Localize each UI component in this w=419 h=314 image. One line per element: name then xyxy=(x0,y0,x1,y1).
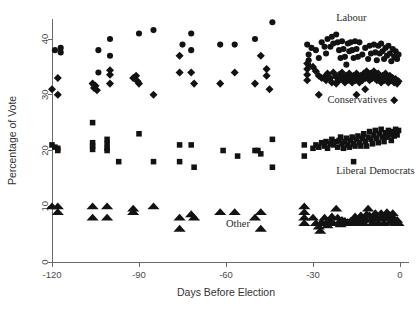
point-labour xyxy=(306,52,312,58)
point-labour xyxy=(150,27,156,33)
point-other xyxy=(214,208,226,215)
point-conservatives xyxy=(263,72,271,80)
point-conservatives xyxy=(216,80,224,88)
point-labour xyxy=(333,31,339,37)
point-labour xyxy=(188,30,194,36)
point-other xyxy=(174,214,186,221)
point-labour xyxy=(179,42,185,48)
point-conservatives xyxy=(265,85,273,93)
y-axis-title: Percentage of Vote xyxy=(6,96,18,185)
point-conservatives xyxy=(176,68,184,76)
point-liberal-democrats xyxy=(270,164,276,170)
plot-canvas: 010203040-120-90-60-300 LabourConservati… xyxy=(0,0,419,314)
point-labour xyxy=(356,39,362,45)
y-tick-label-30: 30 xyxy=(39,89,50,100)
x-tick-label--120: -120 xyxy=(42,269,61,280)
point-labour xyxy=(365,56,371,62)
point-labour xyxy=(322,44,328,50)
point-labour xyxy=(107,53,113,59)
point-labour xyxy=(95,47,101,53)
point-labour xyxy=(339,38,345,44)
point-labour xyxy=(188,47,194,53)
point-liberal-democrats xyxy=(270,137,276,143)
point-liberal-democrats xyxy=(191,164,197,170)
point-conservatives xyxy=(149,91,157,99)
point-conservatives xyxy=(231,68,239,76)
point-labour xyxy=(217,42,223,48)
point-other xyxy=(101,203,113,210)
point-labour xyxy=(269,19,275,25)
y-tick-label-10: 10 xyxy=(39,201,50,212)
point-labour xyxy=(313,47,319,53)
point-labour xyxy=(232,42,238,48)
x-tick-label--30: -30 xyxy=(306,269,320,280)
y-tick-label-40: 40 xyxy=(39,34,50,45)
x-tick-label--90: -90 xyxy=(132,269,146,280)
point-labour xyxy=(316,55,322,61)
point-conservatives xyxy=(257,52,265,60)
y-tick-label-20: 20 xyxy=(39,145,50,156)
point-liberal-democrats xyxy=(302,153,308,159)
point-liberal-democrats xyxy=(177,142,183,148)
point-labour xyxy=(374,57,380,63)
point-labour xyxy=(323,50,329,56)
point-conservatives xyxy=(176,52,184,60)
point-other xyxy=(330,205,342,212)
point-conservatives xyxy=(54,74,62,82)
annotation-labour: Labour xyxy=(336,12,367,23)
point-liberal-democrats xyxy=(151,159,157,165)
x-tick-label--60: -60 xyxy=(219,269,233,280)
point-other xyxy=(87,214,99,221)
point-liberal-democrats xyxy=(177,159,183,165)
point-conservatives xyxy=(315,91,323,99)
point-labour xyxy=(396,52,402,58)
point-liberal-democrats xyxy=(116,159,122,165)
point-liberal-democrats xyxy=(90,120,96,126)
annotation-conservatives: Conservatives xyxy=(328,94,388,105)
point-labour xyxy=(58,49,64,55)
point-conservatives xyxy=(251,80,259,88)
point-liberal-democrats xyxy=(188,142,194,148)
point-liberal-democrats xyxy=(370,141,376,147)
point-other xyxy=(147,203,159,210)
point-liberal-democrats xyxy=(302,142,308,148)
point-liberal-democrats xyxy=(55,148,61,154)
annotation-liberal-democrats: Liberal Democrats xyxy=(336,165,414,176)
point-other xyxy=(229,208,241,215)
point-liberal-democrats xyxy=(375,140,381,146)
point-labour xyxy=(252,36,258,42)
point-labour xyxy=(107,36,113,42)
point-labour xyxy=(342,54,348,60)
point-liberal-democrats xyxy=(235,153,241,159)
point-labour xyxy=(136,30,142,36)
point-labour xyxy=(359,52,365,58)
y-tick-label-0: 0 xyxy=(39,259,50,264)
point-conservatives xyxy=(361,85,369,93)
point-labour xyxy=(95,69,101,75)
point-liberal-democrats xyxy=(258,151,264,157)
point-liberal-democrats xyxy=(104,148,110,154)
point-other xyxy=(87,203,99,210)
point-other xyxy=(255,208,267,215)
point-liberal-democrats xyxy=(351,159,357,165)
point-liberal-democrats xyxy=(90,147,96,153)
point-conservatives xyxy=(190,80,198,88)
point-liberal-democrats xyxy=(364,143,370,149)
point-liberal-democrats xyxy=(396,128,402,134)
x-axis-title: Days Before Election xyxy=(177,286,275,298)
point-other xyxy=(101,214,113,221)
x-tick-label-0: 0 xyxy=(397,269,402,280)
point-conservatives xyxy=(303,76,311,84)
point-other xyxy=(174,225,186,232)
point-conservatives xyxy=(106,80,114,88)
point-other xyxy=(362,205,374,212)
point-labour xyxy=(378,40,384,46)
point-conservatives xyxy=(390,96,398,104)
axis-titles-group: Days Before ElectionPercentage of Vote xyxy=(6,96,275,298)
point-liberal-democrats xyxy=(220,148,226,154)
point-labour xyxy=(52,47,58,53)
data-markers-group xyxy=(46,19,405,234)
annotation-other: Other xyxy=(226,218,250,229)
point-labour xyxy=(343,62,349,68)
point-labour xyxy=(353,46,359,52)
